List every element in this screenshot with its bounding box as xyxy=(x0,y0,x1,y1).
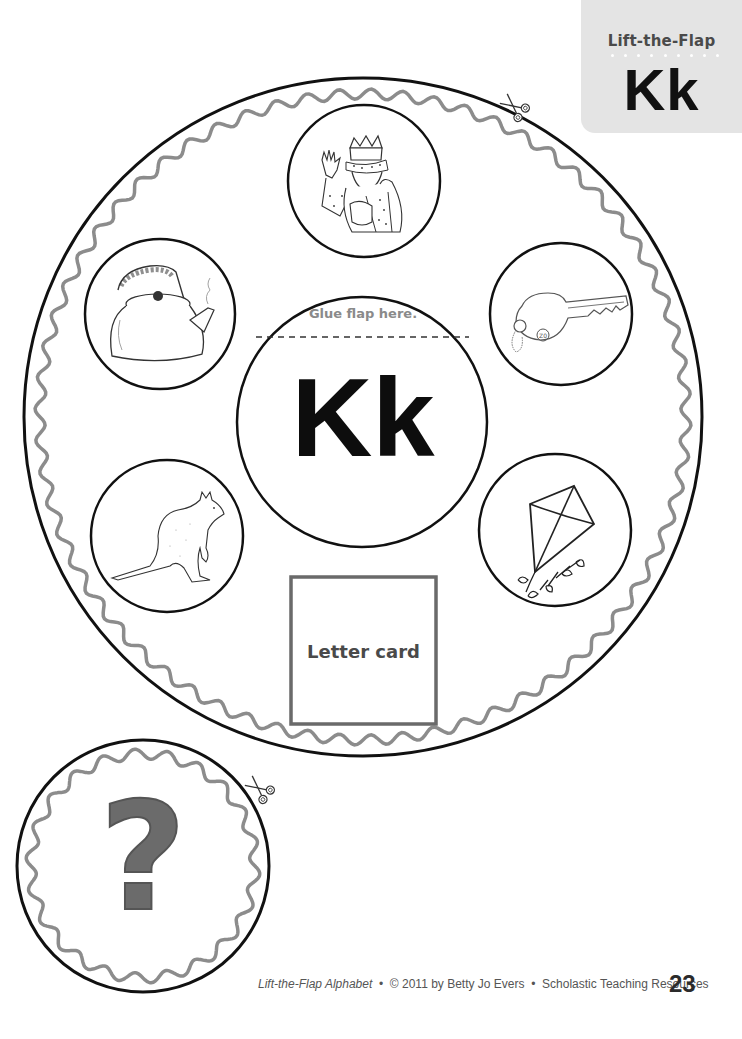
footer-separator: • xyxy=(379,977,383,991)
picture-key: Z0 xyxy=(490,243,632,385)
footer-credit: Lift-the-Flap Alphabet • © 2011 by Betty… xyxy=(258,977,709,991)
center-letter: Kk xyxy=(237,358,489,478)
picture-king xyxy=(288,105,440,257)
footer-copyright: © 2011 by Betty Jo Evers xyxy=(390,977,525,991)
question-mark-icon: ? xyxy=(60,770,226,944)
picture-kettle xyxy=(85,239,235,389)
footer-book-title: Lift-the-Flap Alphabet xyxy=(258,977,372,991)
page-number: 23 xyxy=(669,970,696,998)
svg-text:Z0: Z0 xyxy=(539,332,547,339)
picture-kangaroo xyxy=(91,460,243,612)
glue-flap-label: Glue flap here. xyxy=(270,306,456,321)
picture-kite xyxy=(479,454,631,606)
footer-separator: • xyxy=(531,977,535,991)
letter-card-label: Letter card xyxy=(291,641,436,662)
